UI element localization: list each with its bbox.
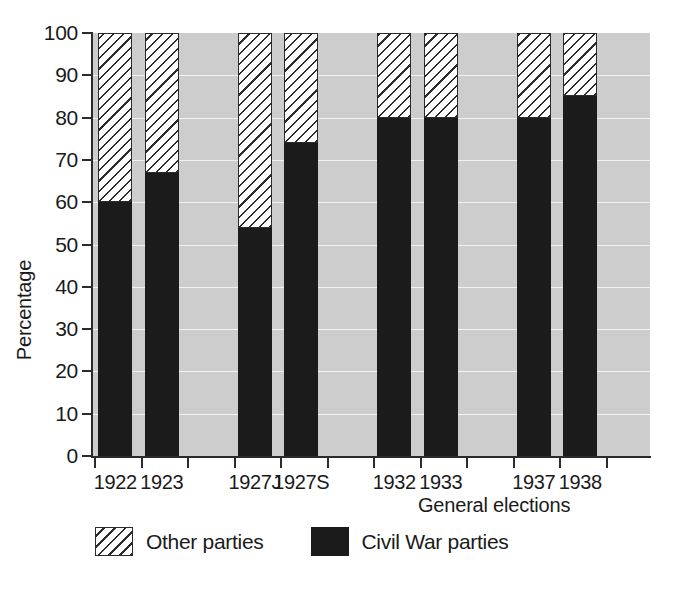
y-axis-tick — [82, 370, 91, 372]
x-axis-tick-label: 1938 — [540, 471, 620, 493]
legend-label-other-parties: Other parties — [146, 531, 264, 552]
x-axis-tick — [606, 457, 608, 468]
x-axis-tick — [187, 457, 189, 468]
x-axis-tick — [373, 457, 375, 468]
x-axis-tick — [420, 457, 422, 468]
bar-segment-other-parties — [238, 33, 272, 228]
bar-segment-other-parties — [377, 33, 411, 118]
x-axis-tick — [141, 457, 143, 468]
bar-segment-civil-war-parties — [563, 96, 597, 456]
y-axis-tick-label: 90 — [32, 64, 78, 85]
x-axis-title: General elections — [418, 495, 570, 515]
bar-1938 — [563, 33, 597, 456]
y-axis-tick — [82, 413, 91, 415]
legend-label-civil-war-parties: Civil War parties — [362, 531, 509, 552]
x-axis-line — [91, 456, 651, 458]
y-axis-tick-label: 40 — [32, 276, 78, 297]
x-axis-tick — [234, 457, 236, 468]
bar-segment-other-parties — [284, 33, 318, 143]
solid-black-swatch — [311, 527, 349, 556]
bar-segment-civil-war-parties — [424, 118, 458, 456]
bar-segment-other-parties — [424, 33, 458, 118]
y-axis-tick-label: 50 — [32, 234, 78, 255]
bar-segment-civil-war-parties — [284, 143, 318, 456]
x-axis-tick — [94, 457, 96, 468]
bar-segment-civil-war-parties — [517, 118, 551, 456]
y-axis-tick — [82, 455, 91, 457]
y-axis-tick-label: 70 — [32, 149, 78, 170]
bar-1932 — [377, 33, 411, 456]
bar-segment-civil-war-parties — [238, 228, 272, 456]
y-axis-tick — [82, 286, 91, 288]
bar-segment-other-parties — [563, 33, 597, 96]
legend-entry-civil-war-parties: Civil War parties — [311, 527, 509, 556]
y-axis-tick-label: 0 — [32, 445, 78, 466]
chart-legend: Other parties Civil War parties — [95, 527, 508, 556]
bar-segment-other-parties — [517, 33, 551, 118]
y-axis-tick-label: 10 — [32, 403, 78, 424]
bar-1927J — [238, 33, 272, 456]
y-axis-tick — [82, 117, 91, 119]
y-axis-title: Percentage — [14, 210, 34, 410]
diagonal-hatch-swatch — [95, 527, 133, 556]
y-axis-tick-label: 80 — [32, 107, 78, 128]
x-axis-tick-label: 1927S — [261, 471, 341, 493]
y-axis-tick-label: 30 — [32, 318, 78, 339]
bar-segment-civil-war-parties — [98, 202, 132, 456]
bar-1923 — [145, 33, 179, 456]
y-axis-tick — [82, 74, 91, 76]
y-axis-tick-label: 60 — [32, 191, 78, 212]
plot-area — [92, 33, 650, 456]
bar-segment-civil-war-parties — [377, 118, 411, 456]
x-axis-tick — [280, 457, 282, 468]
y-axis-tick — [82, 201, 91, 203]
x-axis-tick — [327, 457, 329, 468]
y-axis-tick-label: 100 — [32, 22, 78, 43]
x-axis-tick — [466, 457, 468, 468]
bar-1933 — [424, 33, 458, 456]
legend-entry-other-parties: Other parties — [95, 527, 264, 556]
y-axis-tick — [82, 32, 91, 34]
bar-segment-civil-war-parties — [145, 173, 179, 456]
y-axis-line — [91, 32, 93, 457]
x-axis-tick — [559, 457, 561, 468]
x-axis-tick-label: 1933 — [401, 471, 481, 493]
y-axis-tick — [82, 328, 91, 330]
bar-1927S — [284, 33, 318, 456]
stacked-bar-chart-figure: 1009080706050403020100 Percentage Genera… — [0, 0, 680, 591]
x-axis-tick-label: 1923 — [122, 471, 202, 493]
y-axis-tick — [82, 159, 91, 161]
x-axis-tick — [513, 457, 515, 468]
y-axis-tick-label: 20 — [32, 360, 78, 381]
bar-segment-other-parties — [145, 33, 179, 173]
y-axis-tick — [82, 244, 91, 246]
bar-1937 — [517, 33, 551, 456]
bar-1922 — [98, 33, 132, 456]
bar-segment-other-parties — [98, 33, 132, 202]
